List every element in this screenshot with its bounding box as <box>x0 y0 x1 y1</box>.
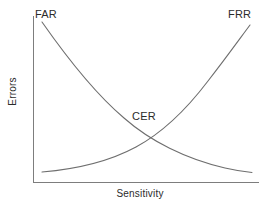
far-label: FAR <box>35 8 57 20</box>
frr-curve <box>42 25 250 172</box>
plot-area <box>0 0 280 210</box>
error-rate-chart: FAR FRR CER Sensitivity Errors <box>0 0 280 210</box>
y-axis-label: Errors <box>7 67 18 117</box>
x-axis-label: Sensitivity <box>0 188 280 199</box>
far-curve <box>42 22 252 173</box>
frr-label: FRR <box>228 8 251 20</box>
cer-annotation-label: CER <box>132 110 156 122</box>
